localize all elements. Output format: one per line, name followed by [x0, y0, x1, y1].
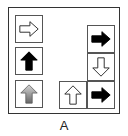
arrow-down-outline-icon: [90, 56, 112, 78]
cell-left-1: [15, 15, 43, 43]
cell-left-3: [15, 80, 43, 108]
arrow-up-outline-icon: [62, 84, 84, 106]
arrow-up-gray-icon: [18, 83, 40, 105]
cell-right-2: [87, 53, 115, 81]
arrow-right-solid-icon: [90, 28, 112, 50]
cell-left-2: [15, 47, 43, 75]
cell-bottom-middle: [59, 81, 87, 109]
arrow-right-outline-icon: [18, 18, 40, 40]
figure-caption: A: [0, 118, 128, 133]
arrow-up-solid-icon: [18, 50, 40, 72]
arrow-right-solid-icon: [90, 84, 112, 106]
cell-right-3: [87, 81, 115, 109]
cell-right-1: [87, 25, 115, 53]
